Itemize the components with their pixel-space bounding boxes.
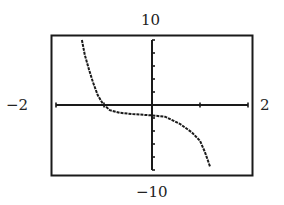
function-curve xyxy=(82,40,210,167)
graph-plot xyxy=(0,0,284,205)
axes xyxy=(56,40,248,170)
